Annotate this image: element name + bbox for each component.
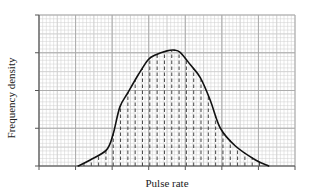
x-axis-label: Pulse rate <box>145 177 188 189</box>
y-axis-label: Frequency density <box>5 58 17 139</box>
frequency-density-chart <box>0 0 315 196</box>
